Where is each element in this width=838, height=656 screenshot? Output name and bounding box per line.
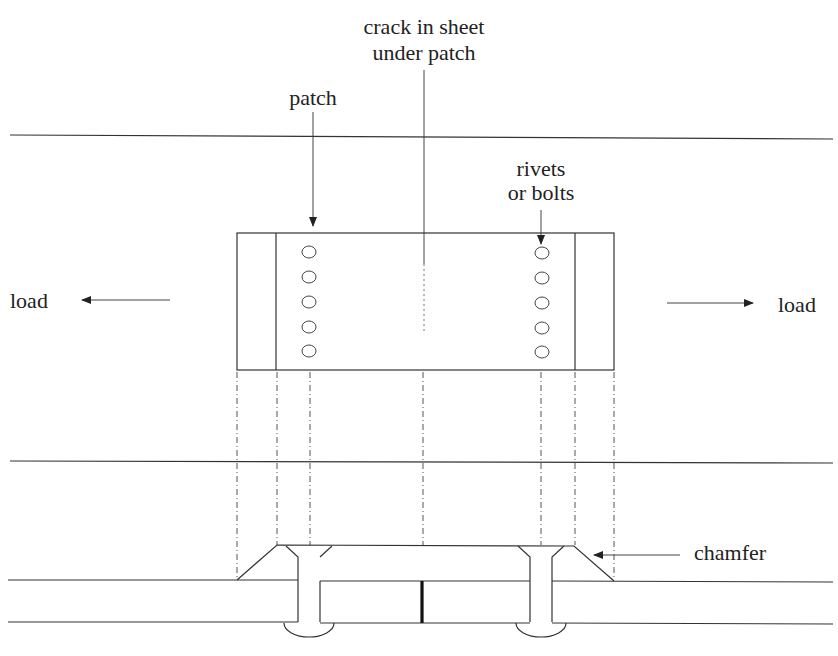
rivet-hole-icon (535, 297, 549, 309)
patch-repair-diagram: crack in sheet under patch patch rivets … (0, 0, 838, 656)
patch-label: patch (289, 85, 337, 110)
patch-section-outline (237, 545, 614, 581)
patch-outline (237, 233, 614, 370)
rivets-label: rivets or bolts (508, 156, 575, 205)
sheet-section-top-right (552, 581, 833, 582)
sheet-top-edge (10, 135, 833, 139)
rivets-label-line2: or bolts (508, 180, 575, 205)
projection-lines (237, 372, 614, 580)
rivet-hole-icon (535, 247, 549, 259)
patch-plan-view (237, 233, 614, 370)
load-right-label: load (778, 292, 816, 317)
rivet-hole-icon (535, 346, 549, 358)
rivet-row-left (302, 246, 316, 357)
crack-label-line2: under patch (372, 40, 475, 65)
rivet-hole-icon (302, 271, 316, 283)
rivet-row-right (535, 247, 549, 358)
rivet-hole-icon (302, 345, 316, 357)
rivets-label-line1: rivets (517, 156, 566, 181)
crack-label: crack in sheet under patch (364, 14, 485, 65)
rivet-hole-icon (302, 296, 316, 308)
load-left-label: load (10, 288, 48, 313)
rivet-hole-icon (535, 272, 549, 284)
sheet-section-bottom-right (552, 623, 833, 624)
crack-label-line1: crack in sheet (364, 14, 485, 39)
chamfer-label: chamfer (694, 540, 767, 565)
sheet-bottom-edge (10, 461, 833, 463)
rivet-hole-icon (302, 246, 316, 258)
rivet-hole-icon (302, 321, 316, 333)
rivet-hole-icon (535, 322, 549, 334)
